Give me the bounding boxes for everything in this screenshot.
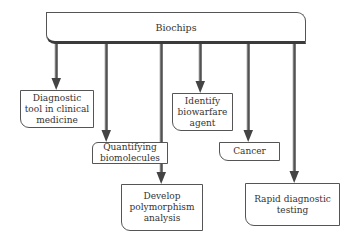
node-label: Rapid diagnostic testing bbox=[254, 194, 331, 216]
root-node-biochips: Biochips bbox=[46, 12, 306, 44]
node-label: Quantifying biomolecules bbox=[100, 142, 160, 164]
node-develop-polymorphism: Develop polymorphism analysis bbox=[121, 184, 203, 231]
node-rapid-diagnostic: Rapid diagnostic testing bbox=[245, 183, 340, 226]
node-diagnostic-tool: Diagnostic tool in clinical medicine bbox=[20, 90, 94, 128]
node-label: Cancer bbox=[233, 146, 266, 157]
arrow-to-cancer bbox=[244, 43, 254, 142]
node-label: Diagnostic tool in clinical medicine bbox=[25, 93, 90, 126]
node-label: Develop polymorphism analysis bbox=[130, 191, 195, 224]
arrow-to-quantifying bbox=[102, 43, 112, 142]
node-quantifying-biomolecules: Quantifying biomolecules bbox=[92, 142, 168, 164]
node-cancer: Cancer bbox=[219, 142, 280, 161]
node-identify-biowarfare: Identify biowarfare agent bbox=[172, 93, 233, 131]
arrow-to-biowarfare bbox=[196, 43, 206, 93]
diagram-canvas: Biochips Diagnostic tool in clinical med… bbox=[0, 0, 353, 237]
arrow-to-diagnostic bbox=[52, 43, 62, 90]
root-node-label: Biochips bbox=[155, 22, 196, 33]
node-label: Identify biowarfare agent bbox=[178, 96, 228, 129]
arrow-to-rapid bbox=[290, 43, 300, 183]
